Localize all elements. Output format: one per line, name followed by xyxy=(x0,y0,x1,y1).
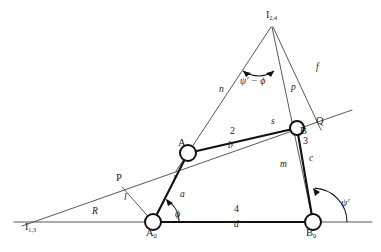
bar-crank-A0-A xyxy=(153,153,188,222)
joint-circles xyxy=(145,121,321,230)
arrowhead-psi-prime xyxy=(313,188,320,196)
joint-label-A: A xyxy=(178,138,186,149)
ray-label-a: a xyxy=(180,190,185,200)
instant-center-label-I24: I2,4 xyxy=(266,10,277,21)
link-length-c: c xyxy=(309,154,313,164)
instant-center-label-I13: I1,3 xyxy=(25,222,36,233)
linkage-diagram-svg xyxy=(0,0,381,252)
angle-label-psi-prime: ψ′ xyxy=(341,198,349,208)
point-label-Q: Q xyxy=(316,116,324,127)
arrowhead-phi xyxy=(166,199,173,206)
figure-canvas: A0 A B B0 I1,3 I2,4 P Q s 2 3 4 b c d xyxy=(0,0,381,252)
distance-label-R: R xyxy=(92,207,98,217)
ray-label-l-left: l xyxy=(124,193,127,203)
segment-label-s: s xyxy=(271,117,275,127)
link-length-b: b xyxy=(228,141,233,151)
arrowheads xyxy=(166,71,320,206)
ray-label-n: n xyxy=(219,85,224,95)
bar-coupler-A-B xyxy=(188,128,297,153)
link-number-2: 2 xyxy=(230,126,235,136)
construction-lines xyxy=(14,27,372,226)
link-length-d: d xyxy=(234,220,239,230)
ray-label-p: p xyxy=(291,83,296,93)
ray-label-m: m xyxy=(280,160,287,170)
joint-label-A0: A0 xyxy=(146,228,157,239)
angle-label-psi-minus-phi: ψ′ − ϕ xyxy=(240,76,265,86)
joint-label-B0: B0 xyxy=(306,228,316,239)
angle-label-phi: ϕ xyxy=(175,209,180,219)
ray-label-f: f xyxy=(316,63,319,73)
link-number-4: 4 xyxy=(234,204,239,214)
point-label-P: P xyxy=(116,173,122,184)
ray-label-l-right: l xyxy=(173,175,176,185)
ray-f-from-I24 xyxy=(273,27,321,130)
link-number-3: 3 xyxy=(303,136,308,146)
